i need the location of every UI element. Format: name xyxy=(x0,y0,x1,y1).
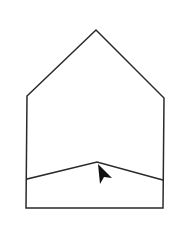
house-diagram xyxy=(0,0,175,228)
mouse-pointer-icon xyxy=(98,164,112,184)
house-outline xyxy=(26,30,164,208)
divider-line xyxy=(27,162,163,180)
